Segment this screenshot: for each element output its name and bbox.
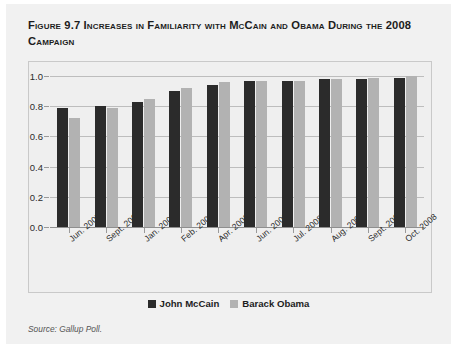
bar-obama bbox=[69, 118, 80, 227]
y-axis-tick-mark bbox=[44, 106, 49, 107]
bar-obama bbox=[294, 81, 305, 227]
bar-mccain bbox=[95, 106, 106, 227]
bar-mccain bbox=[356, 79, 367, 227]
source-note: Source: Gallup Poll. bbox=[28, 324, 102, 334]
bar-group bbox=[274, 76, 311, 227]
bar-obama bbox=[107, 108, 118, 227]
y-axis-tick-mark bbox=[44, 227, 49, 228]
bar-group bbox=[237, 76, 274, 227]
figure-panel: Figure 9.7 Increases in Familiarity with… bbox=[6, 4, 451, 344]
legend-swatch-icon bbox=[148, 300, 156, 308]
bar-obama bbox=[331, 79, 342, 227]
y-axis-tick-mark bbox=[44, 136, 49, 137]
bar-obama bbox=[256, 81, 267, 227]
bar-group bbox=[200, 76, 237, 227]
bar-mccain bbox=[282, 81, 293, 227]
legend-label: Barack Obama bbox=[242, 298, 309, 309]
legend-item: John McCain bbox=[148, 298, 220, 309]
bar-group bbox=[349, 76, 386, 227]
bar-obama bbox=[406, 76, 417, 227]
y-axis-tick-label: 0.4 bbox=[30, 161, 43, 172]
y-axis-tick-mark bbox=[44, 197, 49, 198]
bar-mccain bbox=[169, 91, 180, 227]
y-axis-tick-mark bbox=[44, 167, 49, 168]
bar-group bbox=[312, 76, 349, 227]
bar-mccain bbox=[244, 81, 255, 227]
bar-group bbox=[50, 76, 87, 227]
bar-group bbox=[125, 76, 162, 227]
bar-mccain bbox=[207, 85, 218, 227]
y-axis-tick-label: 1.0 bbox=[30, 71, 43, 82]
bar-obama bbox=[181, 88, 192, 227]
bar-obama bbox=[219, 82, 230, 227]
y-axis-tick-mark bbox=[44, 76, 49, 77]
bar-group bbox=[87, 76, 124, 227]
legend-swatch-icon bbox=[230, 300, 238, 308]
bar-mccain bbox=[57, 108, 68, 227]
chart-legend: John McCainBarack Obama bbox=[6, 298, 451, 309]
y-axis-tick-label: 0.6 bbox=[30, 131, 43, 142]
bar-obama bbox=[368, 78, 379, 227]
bar-mccain bbox=[394, 78, 405, 227]
y-axis-tick-label: 0.0 bbox=[30, 222, 43, 233]
figure-title: Figure 9.7 Increases in Familiarity with… bbox=[28, 18, 428, 49]
bar-group bbox=[162, 76, 199, 227]
legend-item: Barack Obama bbox=[230, 298, 309, 309]
legend-label: John McCain bbox=[160, 298, 220, 309]
y-axis-tick-label: 0.8 bbox=[30, 101, 43, 112]
y-axis-tick-label: 0.2 bbox=[30, 191, 43, 202]
plot-area: 0.00.20.40.60.81.0 bbox=[50, 76, 424, 227]
bar-mccain bbox=[319, 79, 330, 227]
bar-group bbox=[387, 76, 424, 227]
bar-obama bbox=[144, 99, 155, 227]
